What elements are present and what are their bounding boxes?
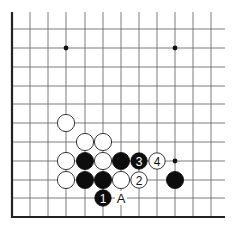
stone-circle	[94, 171, 111, 188]
stone-circle	[57, 114, 74, 131]
black-stone-3: 3	[131, 153, 147, 169]
black-stone	[112, 152, 129, 169]
white-stone-2: 2	[131, 172, 147, 188]
board-marks: A	[115, 191, 127, 206]
white-stone	[57, 152, 74, 169]
move-number: 3	[136, 155, 143, 169]
move-number: 4	[154, 155, 161, 169]
black-stone	[76, 171, 93, 188]
stone-circle	[57, 152, 74, 169]
black-stone	[166, 171, 183, 188]
stone-circle	[94, 152, 111, 169]
star-point	[64, 46, 69, 51]
stone-circle	[57, 171, 74, 188]
point-label-A: A	[115, 191, 127, 206]
star-point	[173, 46, 178, 51]
white-stone	[112, 171, 129, 188]
stone-circle	[94, 133, 111, 150]
stone-circle	[76, 133, 93, 150]
stone-circle	[76, 152, 93, 169]
move-number: 2	[136, 174, 143, 188]
point-label-text: A	[117, 191, 126, 206]
white-stone	[76, 133, 93, 150]
stone-circle	[76, 171, 93, 188]
black-stone	[94, 171, 111, 188]
white-stone	[94, 152, 111, 169]
black-stone-1: 1	[95, 190, 111, 206]
white-stone-4: 4	[149, 153, 165, 169]
stone-circle	[112, 171, 129, 188]
white-stone	[94, 133, 111, 150]
go-board: 3421 A	[0, 0, 234, 227]
white-stone	[57, 114, 74, 131]
stone-circle	[166, 171, 183, 188]
move-number: 1	[100, 192, 107, 206]
star-point	[173, 159, 178, 164]
white-stone	[57, 171, 74, 188]
stone-circle	[112, 152, 129, 169]
black-stone	[76, 152, 93, 169]
